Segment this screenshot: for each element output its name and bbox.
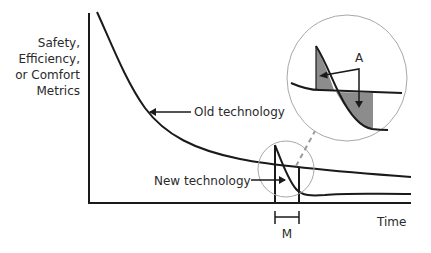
y-axis-label: Safety, Efficiency, or Comfort Metrics <box>15 36 80 98</box>
annotation-a-label: A <box>355 51 364 65</box>
new-technology-curve <box>275 145 411 195</box>
inset-circle <box>287 15 407 141</box>
y-label-line-4: Metrics <box>36 84 80 98</box>
x-axis-label: Time <box>376 215 406 229</box>
old-technology-label: Old technology <box>194 105 285 119</box>
y-label-line-1: Safety, <box>38 36 80 50</box>
y-label-line-3: or Comfort <box>15 68 80 82</box>
y-label-line-2: Efficiency, <box>18 52 80 66</box>
diagram-canvas: Safety, Efficiency, or Comfort Metrics T… <box>0 0 431 253</box>
inset-magnified-view: A <box>287 15 407 141</box>
interval-m-bracket <box>275 211 299 224</box>
interval-m-label: M <box>282 227 292 241</box>
new-technology-label: New technology <box>154 174 251 188</box>
